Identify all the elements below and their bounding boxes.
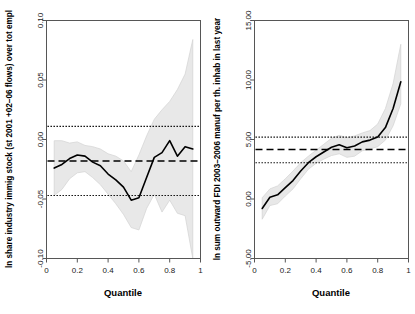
x-tick-label: 0.8 <box>164 266 176 275</box>
x-tick-label: 1 <box>198 266 203 275</box>
x-tick-label: 0.2 <box>280 266 292 275</box>
x-tick-label: 0.6 <box>133 266 145 275</box>
y-tick-label: 0.05 <box>36 72 45 88</box>
y-tick-label: 10.00 <box>244 69 253 90</box>
y-tick-label: 5.00 <box>244 131 253 147</box>
y-tick-label: 0.00 <box>36 131 45 147</box>
y-tick-label: -0.05 <box>36 189 45 208</box>
x-tick-label: 0.4 <box>311 266 323 275</box>
y-tick-label: 0.10 <box>36 12 45 28</box>
x-tick-label: 1 <box>406 266 411 275</box>
x-tick-label: 0.2 <box>72 266 84 275</box>
panel-left-y-axis-label: ln share industry immig stock (st 2001 +… <box>5 10 14 268</box>
panel-right-y-axis-label: ln sum outward FDI 2003–2006 manuf per t… <box>213 17 222 260</box>
x-tick-label: 0.6 <box>341 266 353 275</box>
x-tick-label: 0 <box>252 266 257 275</box>
x-tick-label: 0 <box>44 266 49 275</box>
panel-left-x-axis-label: Quantile <box>104 287 142 298</box>
x-tick-label: 0.8 <box>372 266 384 275</box>
x-tick-label: 0.4 <box>103 266 115 275</box>
y-tick-label: -5.00 <box>244 249 253 268</box>
two-panel-quantile-regression-figure: 0.100.050.00-0.05-0.10 00.20.40.60.81 ln… <box>0 0 415 314</box>
y-tick-label: 0.00 <box>244 191 253 207</box>
y-tick-label: 15.00 <box>244 10 253 31</box>
y-tick-label: -0.10 <box>36 249 45 268</box>
panel-right-x-axis-label: Quantile <box>312 287 350 298</box>
